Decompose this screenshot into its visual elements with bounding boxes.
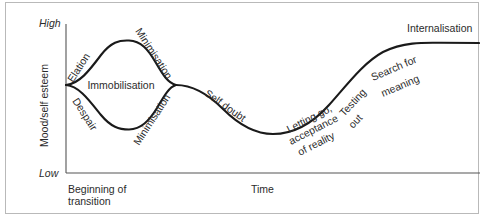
label-internalisation: Internalisation: [407, 22, 473, 34]
x-axis-title: Time: [251, 183, 274, 195]
y-axis-title: Mood/self esteem: [38, 64, 50, 147]
label-immobilisation: Immobilisation: [87, 79, 154, 91]
label-self-doubt: Self doubt: [203, 87, 249, 124]
label-minimisation-lower: Minimisation: [131, 91, 173, 147]
transition-curve-chart: High Low Mood/self esteem Beginning of t…: [6, 3, 480, 215]
label-despair: Despair: [70, 96, 100, 133]
y-axis-low-label: Low: [39, 167, 60, 179]
y-axis-high-label: High: [39, 17, 61, 29]
figure-frame: High Low Mood/self esteem Beginning of t…: [5, 2, 479, 214]
x-axis-origin-label-line2: transition: [68, 195, 111, 207]
x-axis-origin-label-line1: Beginning of: [68, 183, 126, 195]
label-minimisation-upper: Minimisation: [133, 26, 175, 82]
